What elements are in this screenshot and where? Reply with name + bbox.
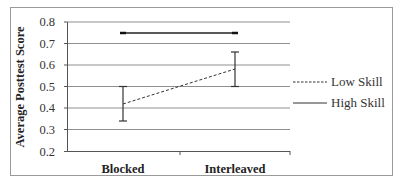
axes (64, 22, 290, 155)
legend-label-low-skill: Low Skill (331, 74, 383, 89)
y-tick-label: 0.5 (39, 80, 55, 94)
line-chart: 0.8 0.7 0.6 0.5 0.4 0.3 0.2 Average Post… (0, 0, 402, 184)
y-tick-label: 0.2 (39, 145, 55, 159)
x-category-label-interleaved: Interleaved (204, 162, 265, 176)
legend-label-high-skill: High Skill (331, 95, 385, 110)
y-tick-label: 0.4 (39, 101, 55, 115)
legend: Low Skill High Skill (293, 74, 385, 110)
y-tick-label: 0.7 (39, 37, 55, 51)
y-axis-title: Average Posttest Score (13, 26, 27, 147)
error-bar-interleaved (231, 52, 239, 87)
gridlines (67, 22, 290, 130)
x-category-label-blocked: Blocked (101, 162, 144, 176)
y-tick-labels: 0.8 0.7 0.6 0.5 0.4 0.3 0.2 (39, 15, 55, 159)
error-bar-blocked (119, 87, 127, 122)
y-tick-label: 0.8 (39, 15, 55, 29)
y-tick-label: 0.3 (39, 123, 55, 137)
y-tick-label: 0.6 (39, 58, 55, 72)
